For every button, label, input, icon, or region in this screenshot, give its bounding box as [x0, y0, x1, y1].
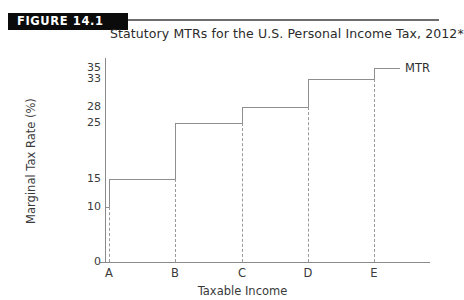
y-axis-line	[105, 58, 106, 263]
chart-area: Marginal Tax Rate (%) Taxable Income 010…	[0, 46, 439, 300]
step-vertical-segment	[175, 123, 176, 178]
x-tick-label: C	[230, 266, 254, 280]
bracket-dashed-line	[109, 207, 110, 262]
x-tick-label: D	[296, 266, 320, 280]
mtr-series-label: MTR	[405, 61, 430, 75]
step-vertical-segment	[109, 179, 110, 207]
x-tick-label: E	[362, 266, 386, 280]
y-axis-title: Marginal Tax Rate (%)	[24, 86, 38, 236]
step-horizontal-segment	[242, 107, 308, 108]
step-vertical-segment	[308, 79, 309, 107]
y-tick-label: 15	[75, 173, 101, 184]
step-horizontal-segment	[109, 179, 175, 180]
x-axis-line	[100, 262, 430, 263]
bracket-dashed-line	[175, 179, 176, 262]
x-tick-label: B	[163, 266, 187, 280]
step-vertical-segment	[374, 68, 375, 79]
y-tick-label: 28	[75, 101, 101, 112]
mtr-leader-line	[374, 68, 400, 69]
y-tick-label-group: 0101525283335	[74, 46, 101, 300]
y-tick-label: 35	[75, 62, 101, 73]
step-horizontal-segment	[175, 123, 242, 124]
y-tick-label: 33	[75, 73, 101, 84]
x-axis-title: Taxable Income	[105, 284, 380, 298]
figure-header: FIGURE 14.1 Statutory MTRs for the U.S. …	[0, 0, 439, 46]
y-tick-label: 10	[75, 201, 101, 212]
step-horizontal-segment	[308, 79, 374, 80]
header-divider-rule	[128, 19, 439, 21]
x-tick-label: A	[97, 266, 121, 280]
bracket-dashed-line	[308, 107, 309, 262]
bracket-dashed-line	[374, 79, 375, 262]
figure-title: Statutory MTRs for the U.S. Personal Inc…	[110, 26, 464, 41]
bracket-dashed-line	[242, 123, 243, 262]
y-tick-label: 25	[75, 117, 101, 128]
step-vertical-segment	[242, 107, 243, 124]
